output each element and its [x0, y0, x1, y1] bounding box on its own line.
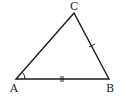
- angle-arc-a: [23, 73, 25, 79]
- triangle-diagram: C A B: [0, 0, 124, 103]
- label-a: A: [9, 82, 19, 95]
- label-c: C: [70, 0, 78, 13]
- triangle-abc: [16, 13, 109, 79]
- label-b: B: [106, 82, 114, 95]
